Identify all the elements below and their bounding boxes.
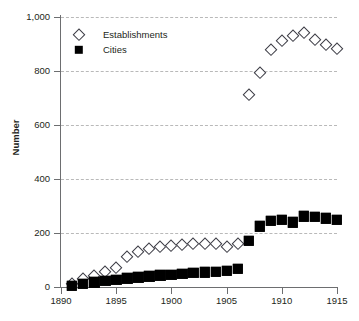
data-point-cities: [100, 276, 110, 286]
plot-area: [61, 17, 337, 287]
data-point-cities: [67, 280, 77, 290]
data-point-cities: [288, 217, 298, 227]
chart-container: Number 02004006008001,000 18901895190019…: [0, 0, 359, 321]
data-point-cities: [188, 268, 198, 278]
data-point-cities: [133, 272, 143, 282]
data-point-cities: [111, 275, 121, 285]
data-point-cities: [177, 268, 187, 278]
data-point-cities: [166, 269, 176, 279]
data-point-cities: [255, 221, 265, 231]
y-axis-tick-label: 400: [34, 174, 50, 184]
data-point-cities: [299, 211, 309, 221]
data-point-establishments: [209, 238, 222, 251]
data-point-cities: [155, 270, 165, 280]
x-axis-tick: [337, 287, 338, 294]
data-point-establishments: [253, 66, 266, 79]
data-point-cities: [210, 266, 220, 276]
data-point-establishments: [231, 237, 244, 250]
data-point-cities: [89, 277, 99, 287]
y-axis-tick-label: 800: [34, 66, 50, 76]
data-point-cities: [277, 215, 287, 225]
data-point-cities: [266, 216, 276, 226]
legend-label: Establishments: [103, 27, 167, 42]
square-marker-icon: [75, 45, 83, 53]
data-point-cities: [332, 214, 342, 224]
data-point-establishments: [110, 261, 123, 274]
data-point-cities: [144, 271, 154, 281]
x-axis-tick-label: 1915: [317, 296, 357, 306]
x-axis-tick: [227, 287, 228, 294]
x-axis-tick-label: 1905: [207, 296, 247, 306]
data-point-cities: [243, 236, 253, 246]
x-axis-tick: [61, 287, 62, 294]
legend-label: Cities: [103, 42, 127, 57]
data-point-cities: [199, 267, 209, 277]
y-axis-tick-label: 600: [34, 120, 50, 130]
data-point-establishments: [220, 240, 233, 253]
data-point-cities: [310, 212, 320, 222]
data-point-establishments: [242, 89, 255, 102]
x-axis-tick: [116, 287, 117, 294]
data-point-cities: [78, 279, 88, 289]
y-axis-tick-label: 200: [34, 228, 50, 238]
data-point-cities: [232, 263, 242, 273]
x-axis-tick-label: 1895: [96, 296, 136, 306]
x-axis-tick-label: 1900: [151, 296, 191, 306]
data-point-cities: [221, 266, 231, 276]
y-axis-tick-label: 0: [45, 282, 50, 292]
x-axis-tick-label: 1890: [41, 296, 81, 306]
y-axis-title: Number: [10, 120, 21, 156]
x-axis-line: [60, 287, 338, 288]
x-axis-tick: [282, 287, 283, 294]
x-axis-tick-label: 1910: [262, 296, 302, 306]
x-axis-tick: [171, 287, 172, 294]
data-point-establishments: [297, 27, 310, 40]
data-point-establishments: [264, 43, 277, 56]
y-axis-tick-label: 1,000: [26, 12, 50, 22]
data-point-cities: [321, 213, 331, 223]
data-point-cities: [122, 273, 132, 283]
